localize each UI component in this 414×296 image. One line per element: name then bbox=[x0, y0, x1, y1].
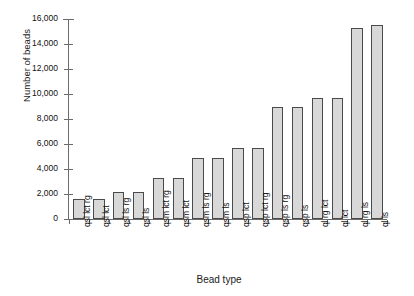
bar bbox=[292, 107, 304, 220]
x-axis-tick-label: ql ls bbox=[381, 212, 390, 227]
x-axis-title-text: Bead type bbox=[196, 274, 241, 285]
y-axis-tick-label: 2,000 bbox=[6, 189, 58, 199]
y-axis-tick-label: 16,000 bbox=[6, 14, 58, 24]
y-axis-tick-label-text: 16,000 bbox=[6, 14, 58, 22]
bar bbox=[351, 28, 363, 219]
bar bbox=[371, 25, 383, 219]
x-axis-tick-label: ql rg ls bbox=[361, 202, 370, 227]
y-axis-tick-label: 6,000 bbox=[6, 139, 58, 149]
y-axis-tick-label-text: 0 bbox=[6, 214, 58, 222]
y-axis-tick-label-text: 4,000 bbox=[6, 164, 58, 172]
x-axis-tick-label: qsm lct rg bbox=[162, 190, 171, 227]
y-axis-tick-label: 12,000 bbox=[6, 64, 58, 74]
x-axis-tick-label: qsp ls bbox=[301, 205, 310, 227]
x-axis-tick-label: qsm ls rg bbox=[202, 193, 211, 227]
x-axis-tick-label: ql rg lct bbox=[321, 200, 330, 227]
y-axis-tick-label: 0 bbox=[6, 214, 58, 224]
plot-area bbox=[69, 19, 387, 219]
x-axis-title: Bead type bbox=[0, 274, 414, 285]
y-axis-tick-label-text: 12,000 bbox=[6, 64, 58, 72]
x-axis-tick-label: qsp ls rg bbox=[281, 195, 290, 227]
y-axis-tick-label-text: 6,000 bbox=[6, 139, 58, 147]
x-axis-tick-label: qsm ls bbox=[222, 202, 231, 227]
y-axis-tick-label-text: 2,000 bbox=[6, 189, 58, 197]
x-axis-tick-label: qsl lct bbox=[102, 205, 111, 227]
x-axis-tick-label: qsl ls bbox=[142, 208, 151, 227]
y-axis-tick-label: 4,000 bbox=[6, 164, 58, 174]
x-axis-tick-label: qsm lct bbox=[182, 200, 191, 227]
y-axis-tick-label: 10,000 bbox=[6, 89, 58, 99]
x-axis-tick bbox=[69, 220, 70, 224]
x-axis-tick-label: qsl ls rg bbox=[122, 198, 131, 227]
x-axis-tick-label: ql lct bbox=[341, 210, 350, 227]
x-axis-tick-label: qsp lct rg bbox=[261, 193, 270, 228]
y-axis-tick-label: 8,000 bbox=[6, 114, 58, 124]
y-axis-tick-label-text: 14,000 bbox=[6, 39, 58, 47]
bar bbox=[332, 98, 344, 219]
y-axis-tick-label-text: 8,000 bbox=[6, 114, 58, 122]
bar-chart: Number of beads 02,0004,0006,0008,00010,… bbox=[0, 0, 414, 296]
y-axis-tick-label: 14,000 bbox=[6, 39, 58, 49]
y-axis-tick-label-text: 10,000 bbox=[6, 89, 58, 97]
x-axis-tick-label: qsp lct bbox=[242, 202, 251, 227]
x-axis-tick-label: qsl lct rg bbox=[83, 195, 92, 227]
